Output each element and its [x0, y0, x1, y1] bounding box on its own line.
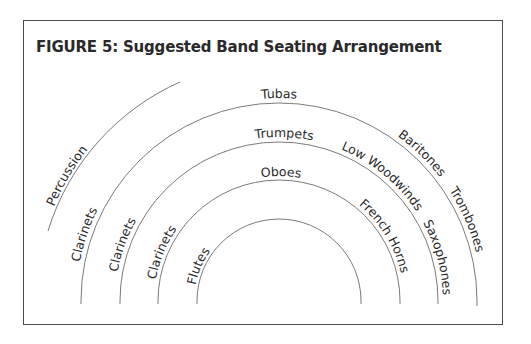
seating-diagram: Percussion Clarinets Clarinets Clarinets…	[0, 0, 531, 344]
label-baritones: Baritones	[396, 126, 450, 179]
label-tubas: Tubas	[259, 86, 297, 102]
label-french-horns: French Horns	[357, 196, 413, 275]
label-trombones: Trombones	[446, 183, 488, 253]
label-flutes: Flutes	[184, 244, 213, 286]
label-trumpets: Trumpets	[253, 125, 316, 144]
arc-row-1	[197, 219, 361, 304]
label-oboes: Oboes	[260, 164, 302, 181]
arc-row-2	[158, 180, 400, 304]
label-saxophones: Saxophones	[420, 217, 455, 295]
label-clarinets-outer: Clarinets	[68, 204, 100, 262]
label-percussion: Percussion	[43, 142, 90, 208]
label-clarinets-middle: Clarinets	[106, 215, 139, 273]
